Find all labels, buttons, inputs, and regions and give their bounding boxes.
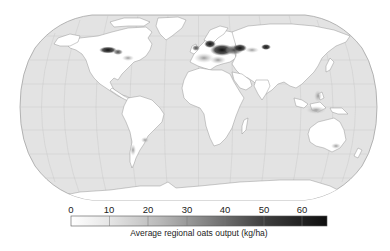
colorbar-tick-0: 0 — [68, 204, 73, 215]
colorbar-tick-60: 60 — [297, 204, 308, 215]
colorbar-tick-10: 10 — [104, 204, 115, 215]
hotspot-australia — [331, 143, 341, 149]
colorbar-tick-20: 20 — [143, 204, 154, 215]
oats-output-map-figure: 0 10 20 30 40 50 60 Average regional oat… — [0, 0, 390, 251]
hotspot-southeast-asia — [314, 90, 322, 102]
colorbar-tick-30: 30 — [182, 204, 193, 215]
hotspot-south-america — [130, 144, 136, 156]
colorbar-tick-50: 50 — [259, 204, 270, 215]
map-globe — [0, 15, 390, 202]
colorbar-label: Average regional oats output (kg/ha) — [130, 228, 268, 238]
colorbar: 0 10 20 30 40 50 60 Average regional oat… — [68, 204, 327, 238]
colorbar-tick-40: 40 — [220, 204, 231, 215]
hotspot-siberia — [261, 44, 271, 50]
